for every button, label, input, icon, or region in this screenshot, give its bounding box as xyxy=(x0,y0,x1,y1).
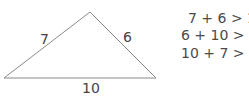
triangle xyxy=(4,12,156,78)
inequality-2: 6 + 10 > 7 xyxy=(181,27,249,43)
side-label-right: 6 xyxy=(123,29,132,45)
inequality-3: 10 + 7 > 6 xyxy=(181,45,249,61)
side-label-left: 7 xyxy=(40,31,49,47)
inequality-1: 7 + 6 > 10 xyxy=(188,10,249,26)
side-label-bottom: 10 xyxy=(82,80,100,96)
